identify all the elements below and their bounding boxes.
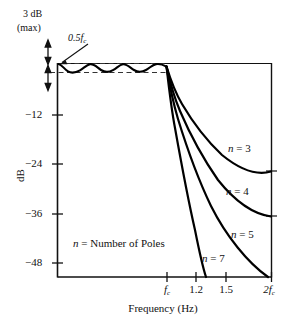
xtick-label-1-2: 1.2 <box>189 283 203 295</box>
x-axis-title: Frequency (Hz) <box>128 302 197 314</box>
poles-note-rest: = Number of Poles <box>79 237 165 249</box>
curve-label-n4: n = 4 <box>226 185 249 197</box>
ripple-max-label-line1: 3 dB <box>23 8 42 19</box>
half-fc-text: 0.5f <box>68 32 83 43</box>
ytick-label-minus48: −48 <box>25 256 42 268</box>
half-fc-annotation: 0.5fc <box>68 32 86 45</box>
ytick-label-minus12: −12 <box>25 108 42 120</box>
half-fc-subscript: c <box>83 37 86 45</box>
xtick-label-2fc: 2fc <box>263 283 275 297</box>
curve-label-n7: n = 7 <box>202 252 225 264</box>
xtick-2fc-subscript: c <box>272 289 275 297</box>
ytick-label-minus36: −36 <box>25 207 42 219</box>
xtick-label-1-5: 1.5 <box>219 283 233 295</box>
curve-label-n3: n = 3 <box>228 142 251 154</box>
poles-note: n = Number of Poles <box>73 237 165 249</box>
y-axis-title: dB <box>14 169 26 182</box>
ripple-max-label-line2: (max) <box>17 22 41 33</box>
ytick-label-minus24: −24 <box>25 157 42 169</box>
xtick-fc-subscript: c <box>167 289 170 297</box>
xtick-2fc-text: 2f <box>263 283 272 295</box>
curve-label-n5: n = 5 <box>231 228 254 240</box>
xtick-label-fc: fc <box>164 283 170 297</box>
chebyshev-response-chart <box>0 0 287 326</box>
